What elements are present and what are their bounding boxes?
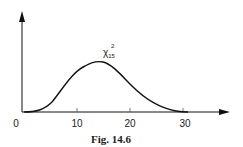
x-tick-label-20: 20 — [124, 118, 136, 129]
curve-label-superscript: 2 — [111, 43, 115, 49]
x-axis-arrow-icon — [219, 109, 230, 115]
x-tick-label-0: 0 — [13, 118, 19, 129]
curve-label-subscript: 15 — [108, 53, 115, 59]
x-tick-label-30: 30 — [179, 118, 191, 129]
figure-caption: Fig. 14.6 — [91, 133, 132, 145]
chi-square-curve — [24, 62, 188, 112]
x-tick-label-10: 10 — [71, 118, 83, 129]
chart: 0 10 20 30 χ15 2 Fig. 14.6 — [0, 0, 243, 147]
y-axis-arrow-icon — [19, 11, 25, 22]
